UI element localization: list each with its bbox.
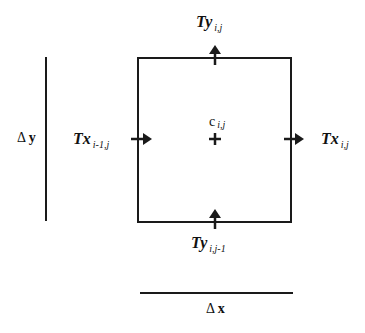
delta-symbol: Δ — [206, 301, 214, 316]
cell-center-label: ci,j — [209, 115, 225, 129]
flux-subscript: i,j-1 — [209, 243, 225, 254]
flux-subscript: i-1,j — [93, 139, 109, 150]
dimension-var: x — [218, 301, 225, 316]
flux-label-left: Txi-1,j — [73, 131, 109, 147]
delta-y-label: Δ y — [17, 131, 36, 145]
center-symbol: c — [209, 114, 215, 129]
cell-center-plus-icon — [209, 133, 221, 145]
delta-symbol: Δ — [17, 130, 25, 145]
delta-x-label: Δ x — [206, 302, 225, 316]
flux-symbol: Tx — [73, 130, 91, 147]
flux-subscript: i,j — [214, 22, 222, 33]
arrow-right-icon-left — [131, 133, 152, 145]
flux-label-top: Tyi,j — [196, 14, 222, 30]
arrow-right-icon-right — [284, 133, 304, 145]
dimension-var: y — [29, 130, 36, 145]
arrow-up-icon-bottom — [209, 209, 221, 229]
arrow-up-icon-top — [209, 45, 221, 65]
center-subscript: i,j — [217, 119, 225, 130]
flux-label-right: Txi,j — [321, 131, 349, 147]
flux-symbol: Ty — [191, 234, 207, 251]
flux-label-bottom: Tyi,j-1 — [191, 235, 226, 251]
flux-subscript: i,j — [341, 139, 349, 150]
flux-symbol: Ty — [196, 13, 212, 30]
flux-symbol: Tx — [321, 130, 339, 147]
diagram-canvas — [0, 0, 365, 333]
